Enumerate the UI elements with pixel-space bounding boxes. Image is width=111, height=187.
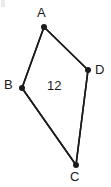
vertex-dot-a <box>41 24 47 30</box>
vertex-label-a: A <box>37 6 46 19</box>
vertex-label-d: D <box>95 63 104 76</box>
vertex-dot-b <box>19 85 25 91</box>
quadrilateral-svg <box>0 0 111 187</box>
vertex-label-c: C <box>70 170 79 183</box>
vertex-dot-c <box>73 162 79 168</box>
interior-measure-label: 12 <box>47 79 61 92</box>
geometry-figure: A B C D 12 <box>0 0 111 187</box>
vertex-dot-d <box>85 67 91 73</box>
vertex-label-b: B <box>4 78 13 91</box>
